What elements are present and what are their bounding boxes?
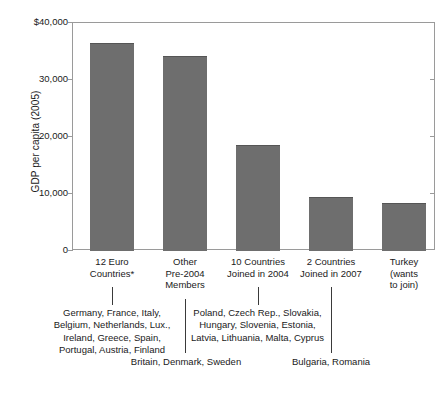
y-tick-mark [68,79,73,80]
bar-joined-2007[interactable] [309,197,353,251]
bar-turkey[interactable] [382,203,426,251]
y-tick-label: $40,000 [34,17,68,27]
x-label-turkey: Turkey (wants to join) [359,256,447,291]
y-tick-mark [68,22,73,23]
bar-12-euro-countries[interactable] [90,43,134,251]
bar-other-pre-2004[interactable] [163,56,207,251]
y-tick-label: 10,000 [39,188,68,198]
bar-chart: GDP per capita (2005) $40,000 30,000 20,… [0,0,447,396]
y-tick-mark [68,136,73,137]
y-tick-mark-right [430,193,435,194]
bar-joined-2004[interactable] [236,145,280,251]
y-tick-mark-right [430,136,435,137]
y-tick-mark [68,250,73,251]
y-tick-label: 20,000 [39,131,68,141]
annotation-joined-2004: Poland, Czech Rep., Slovakia, Hungary, S… [150,307,365,344]
y-tick-mark [68,193,73,194]
leader-line-euro-countries [112,287,113,305]
annotation-other-pre-2004: Britain, Denmark, Sweden [96,356,276,368]
y-tick-label: 30,000 [39,74,68,84]
leader-line-joined-2004 [258,287,259,305]
annotation-joined-2007: Bulgaria, Romania [257,356,405,368]
y-tick-mark-right [430,79,435,80]
